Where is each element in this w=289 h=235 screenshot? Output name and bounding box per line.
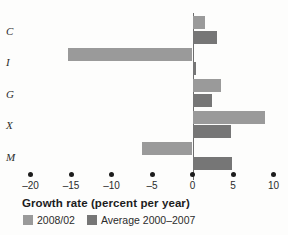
x-tick-label-5: 5 <box>213 180 253 191</box>
bar-m-series-0 <box>142 142 192 155</box>
plot-area: CIGXM <box>0 0 288 182</box>
x-tick-dot-3 <box>150 172 155 177</box>
bar-i-series-0 <box>68 48 193 61</box>
bar-m-series-1 <box>193 157 233 170</box>
x-axis-title: Growth rate (percent per year) <box>22 197 190 209</box>
legend-swatch-icon-1 <box>87 215 97 225</box>
x-tick-dot-0 <box>28 172 33 177</box>
legend-label-1: Average 2000–2007 <box>101 214 195 226</box>
x-axis: –20–15–10–50510 <box>0 172 288 198</box>
x-tick-label-4: 0 <box>173 180 213 191</box>
legend-label-0: 2008/02 <box>37 214 75 226</box>
category-label-g: G <box>6 89 28 100</box>
x-tick-dot-4 <box>190 172 195 177</box>
x-tick-label-0: –20 <box>11 180 51 191</box>
category-label-i: I <box>6 57 28 68</box>
legend-item-0[interactable]: 2008/02 <box>23 214 75 226</box>
legend-swatch-icon-0 <box>23 215 33 225</box>
x-tick-label-3: –5 <box>132 180 172 191</box>
x-tick-dot-1 <box>69 172 74 177</box>
chart-legend: 2008/02Average 2000–2007 <box>23 214 195 226</box>
bar-c-series-0 <box>193 16 206 29</box>
x-tick-label-1: –15 <box>51 180 91 191</box>
x-tick-dot-2 <box>109 172 114 177</box>
x-tick-label-6: 10 <box>254 180 289 191</box>
chart-figure: CIGXM –20–15–10–50510 Growth rate (perce… <box>0 0 288 235</box>
bar-g-series-0 <box>193 79 221 92</box>
category-label-x: X <box>6 120 28 131</box>
legend-item-1[interactable]: Average 2000–2007 <box>87 214 195 226</box>
bar-i-series-1 <box>193 62 196 75</box>
bar-x-series-1 <box>193 125 231 138</box>
bar-c-series-1 <box>193 31 217 44</box>
bar-g-series-1 <box>193 94 212 107</box>
x-tick-dot-5 <box>231 172 236 177</box>
category-label-m: M <box>6 152 28 163</box>
x-tick-dot-6 <box>271 172 276 177</box>
x-tick-label-2: –10 <box>92 180 132 191</box>
category-label-c: C <box>6 26 28 37</box>
bar-x-series-0 <box>193 111 266 124</box>
